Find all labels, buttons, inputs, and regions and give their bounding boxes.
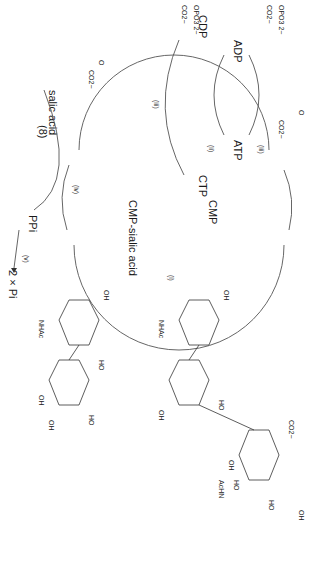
node-atp: ATP	[232, 140, 244, 161]
cdp-ctp-arc	[165, 40, 184, 175]
reaction-scheme: CMP ATP ADP CDP CTP CMP-sialic acid sali…	[0, 0, 329, 584]
product-co2: CO2−	[288, 420, 295, 438]
step-iv: (iv)	[72, 185, 80, 194]
adp-atp-arc	[249, 55, 259, 135]
pep-mid-phosphate: OPO3 2−	[193, 5, 200, 34]
step-i: (i)	[167, 275, 175, 281]
ppi-arrow	[14, 230, 19, 268]
node-adp: ADP	[232, 40, 244, 63]
pyruvate-top-carbonyl: O	[298, 110, 305, 116]
product-oh-2: OH	[228, 460, 235, 471]
step-iii-b: (iii)	[152, 100, 160, 109]
pep-top-carboxylate: CO2−	[266, 5, 273, 23]
node-ctp: CTP	[197, 175, 209, 197]
atp-cdp-arc	[214, 55, 224, 135]
compound-number: (8)	[37, 125, 49, 138]
product-ho-3: HO	[218, 400, 225, 411]
main-cycle	[62, 55, 291, 350]
step-ii: (ii)	[207, 145, 215, 152]
step-v: (v)	[22, 255, 30, 263]
product-nhac: NHAc	[158, 320, 165, 339]
product-ho-1: HO	[268, 500, 275, 511]
cycle-arc-bottom	[62, 165, 69, 230]
node-cmp-sialic-acid: CMP-sialic acid	[127, 200, 139, 276]
node-ppi: PPi	[27, 215, 39, 232]
pep-top-phosphate: OPO3 2−	[278, 5, 285, 34]
pyruvate-top-carboxylate: CO2−	[278, 120, 285, 138]
pyruvate-mid-carboxylate: CO2−	[88, 70, 95, 88]
node-cmp: CMP	[207, 200, 219, 224]
acceptor-oh-2: OH	[48, 420, 55, 431]
acceptor-ho-2: HO	[88, 415, 95, 426]
acceptor-nhac: NHAc	[38, 320, 45, 339]
acceptor-ho-1: HO	[98, 360, 105, 371]
pep-mid-carboxylate: CO2−	[181, 5, 188, 23]
product-achn: AcHN	[218, 480, 225, 498]
pyruvate-mid-carbonyl: O	[98, 60, 105, 66]
acceptor-anomeric-oh: OH	[103, 290, 110, 301]
product-oh-1: OH	[298, 510, 305, 521]
product-ho-2: HO	[233, 480, 240, 491]
acceptor-oh-1: OH	[38, 395, 45, 406]
node-pi: 2 × Pi	[7, 270, 19, 298]
step-iii-a: (iii)	[257, 145, 265, 154]
acceptor-structure: OH NHAc HO OH HO OH	[38, 290, 110, 431]
product-structure: OH NHAc CO2− AcHN HO OH HO OH HO OH	[158, 290, 305, 521]
cycle-arc-top	[284, 170, 292, 230]
cycle-arc-left	[79, 55, 269, 150]
product-anomeric-oh: OH	[223, 290, 230, 301]
product-oh-3: OH	[158, 410, 165, 421]
